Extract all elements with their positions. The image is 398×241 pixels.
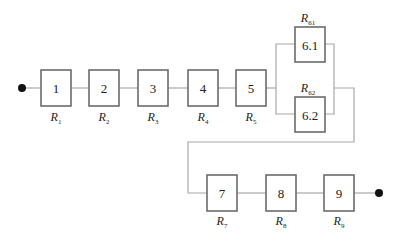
block-2-label: 2	[101, 81, 108, 96]
block-7: 7 R7	[207, 175, 237, 230]
block-5: 5 R5	[236, 70, 266, 126]
start-node	[18, 84, 26, 92]
block-9: 9 R9	[324, 175, 354, 230]
block-6-2-reliability: R62	[300, 81, 316, 97]
block-9-label: 9	[336, 186, 343, 201]
block-4-reliability: R4	[197, 110, 209, 126]
block-1-reliability: R1	[50, 110, 62, 126]
block-6-2-label: 6.2	[302, 108, 318, 123]
block-8-label: 8	[278, 186, 285, 201]
block-5-label: 5	[248, 81, 255, 96]
block-8: 8 R8	[266, 175, 296, 230]
block-7-label: 7	[219, 186, 226, 201]
block-3: 3 R3	[138, 70, 168, 126]
block-6-1-reliability: R61	[300, 11, 316, 27]
block-2: 2 R2	[89, 70, 119, 126]
block-1: 1 R1	[41, 70, 71, 126]
block-6-2: 6.2 R62	[295, 81, 325, 132]
reliability-block-diagram: 1 R1 2 R2 3 R3 4 R4 5 R5 6.1 R61 6.2 R62…	[0, 0, 398, 241]
block-6-1: 6.1 R61	[295, 11, 325, 62]
wire-parallel-right	[325, 44, 334, 114]
end-node	[375, 189, 383, 197]
block-3-label: 3	[150, 81, 157, 96]
block-4: 4 R4	[188, 70, 218, 126]
wire-parallel-left	[276, 44, 295, 114]
block-4-label: 4	[200, 81, 207, 96]
block-2-reliability: R2	[98, 110, 110, 126]
block-1-label: 1	[53, 81, 60, 96]
block-9-reliability: R9	[333, 214, 345, 230]
block-6-1-label: 6.1	[302, 38, 318, 53]
block-3-reliability: R3	[147, 110, 159, 126]
block-8-reliability: R8	[275, 214, 287, 230]
block-7-reliability: R7	[216, 214, 228, 230]
block-5-reliability: R5	[245, 110, 257, 126]
